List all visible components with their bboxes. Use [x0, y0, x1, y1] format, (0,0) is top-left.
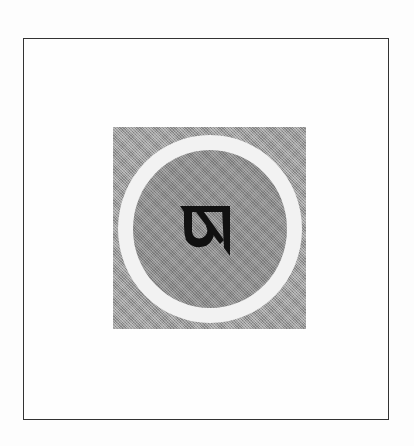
tibetan-a-icon	[170, 194, 250, 264]
